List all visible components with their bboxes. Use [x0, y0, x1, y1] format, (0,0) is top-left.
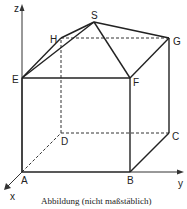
- y-axis-arrow-icon: [177, 170, 184, 175]
- x-axis: [7, 172, 22, 187]
- point-S: S: [91, 10, 98, 21]
- x-axis-label: x: [10, 191, 15, 202]
- figure-caption: Abbildung (nicht maßstäblich): [41, 196, 151, 206]
- edge-FG: [130, 38, 169, 78]
- point-H: H: [50, 34, 57, 45]
- edge-AD: [22, 133, 61, 172]
- z-axis-arrow-icon: [20, 4, 25, 11]
- point-D: D: [61, 136, 68, 147]
- edge-FS: [94, 22, 130, 78]
- point-A: A: [21, 175, 28, 186]
- edge-GS: [94, 22, 169, 38]
- point-F: F: [133, 77, 139, 88]
- house-diagram: z y x S H G E F D C A B Abbildung (nicht…: [0, 0, 187, 209]
- edge-BC: [130, 133, 169, 172]
- point-B: B: [127, 175, 134, 186]
- point-G: G: [173, 36, 181, 47]
- y-axis-label: y: [178, 178, 183, 189]
- point-E: E: [12, 74, 19, 85]
- edge-ES: [22, 22, 94, 78]
- z-axis-label: z: [14, 3, 19, 14]
- point-C: C: [172, 131, 179, 142]
